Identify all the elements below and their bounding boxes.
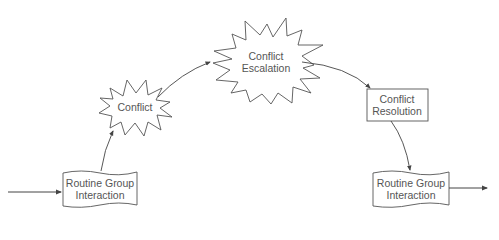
- routine-start-label-line-1: Routine Group: [66, 177, 134, 189]
- conflict-resolution-label-line-1: Conflict: [372, 93, 422, 105]
- routine-end-label: Routine Group Interaction: [377, 177, 445, 201]
- conflict-resolution-label: Conflict Resolution: [372, 93, 422, 117]
- conflict-escalation-label-line-2: Escalation: [242, 62, 290, 74]
- conflict-label: Conflict: [117, 101, 152, 113]
- edge-conflict-to-escalation: [158, 62, 210, 97]
- conflict-resolution-label-line-2: Resolution: [372, 105, 422, 117]
- edge-resolution-to-routine: [391, 121, 410, 170]
- routine-end-label-line-1: Routine Group: [377, 177, 445, 189]
- conflict-escalation-label-line-1: Conflict: [242, 50, 290, 62]
- routine-start-label-line-2: Interaction: [66, 189, 134, 201]
- routine-start-label: Routine Group Interaction: [66, 177, 134, 201]
- routine-end-label-line-2: Interaction: [377, 189, 445, 201]
- edge-routine-to-conflict: [101, 131, 113, 171]
- conflict-escalation-label: Conflict Escalation: [242, 50, 290, 74]
- conflict-label-line-1: Conflict: [117, 101, 152, 113]
